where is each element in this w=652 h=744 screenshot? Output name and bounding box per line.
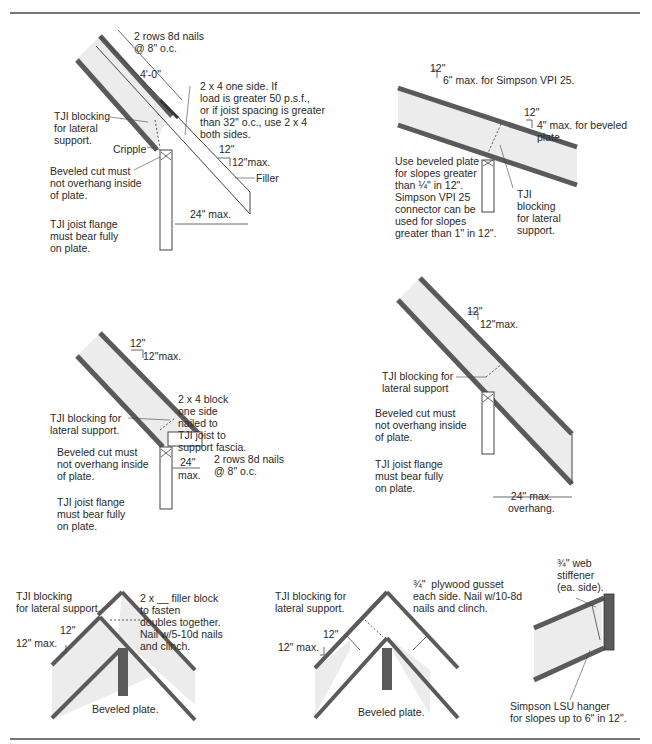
d2-slope2-rise: 4" max. for beveled plate.: [537, 119, 627, 143]
d4-blocking-label: TJI blocking for lateral support: [382, 370, 453, 394]
d3-nails-label: 2 rows 8d nails @ 8" o.c.: [214, 453, 284, 477]
d6-gusset-label: ¾" plywood gusset each side. Nail w/10-8…: [413, 578, 522, 614]
d1-filler-label: Filler: [256, 172, 279, 184]
d4-slope-rise: 12"max.: [480, 318, 518, 330]
d4-slope-run: 12": [467, 305, 482, 317]
d5-slope-run: 12": [60, 624, 75, 636]
d3-slope-rise: 12"max.: [143, 350, 181, 362]
d6-slope-run: 12": [323, 628, 338, 640]
d4-flange-label: TJI joist flange must bear fully on plat…: [375, 458, 443, 494]
d2-blocking-label: TJI blocking for lateral support.: [517, 188, 561, 236]
d2-slope1-rise: 6" max. for Simpson VPI 25.: [443, 74, 575, 86]
d6-slope-rise: 12" max.: [278, 641, 319, 653]
d5-blocking-label: TJI blocking for lateral support.: [16, 590, 101, 614]
d1-nails-label: 2 rows 8d nails @ 8" o.c.: [134, 30, 204, 54]
d1-beveled-label: Beveled cut must not overhang inside of …: [50, 165, 142, 201]
d5-filler-label: 2 x __ filler block to fasten doubles to…: [140, 592, 223, 652]
d1-length-label: 4'-0": [140, 68, 161, 80]
d3-overhang-bot: max.: [178, 469, 201, 481]
d5-slope-rise: 12" max.: [16, 637, 57, 649]
d3-blocking-label: TJI blocking for lateral support.: [50, 412, 121, 436]
d1-slope-run: 12": [219, 143, 234, 155]
d3-beveled-label: Beveled cut must not overhang inside of …: [57, 446, 149, 482]
d6-plate-label: Beveled plate.: [358, 706, 425, 718]
d7-hanger-label: Simpson LSU hanger for slopes up to 6" i…: [510, 700, 627, 724]
d3-overhang-top: 24": [180, 456, 195, 468]
d3-block-label: 2 x 4 block one side nailed to TJI joist…: [178, 393, 246, 453]
d2-slope1-run: 12": [430, 62, 445, 74]
detail-hanger-connection: [534, 594, 614, 700]
d1-overhang-label: 24" max.: [190, 208, 231, 220]
d4-beveled-label: Beveled cut must not overhang inside of …: [375, 407, 467, 443]
d2-slope2-run: 12": [524, 106, 539, 118]
d1-cripple-label: Cripple: [113, 143, 146, 155]
d4-overhang-label: 24" max. overhang.: [508, 490, 555, 514]
d1-2x4-label: 2 x 4 one side. If load is greater 50 p.…: [200, 80, 325, 140]
d1-flange-label: TJI joist flange must bear fully on plat…: [50, 218, 118, 254]
d7-stiffener-label: ¾" web stiffener (ea. side).: [557, 557, 604, 593]
d5-plate-label: Beveled plate.: [92, 703, 159, 715]
d6-blocking-label: TJI blocking for lateral support.: [275, 590, 346, 614]
d1-blocking-label: TJI blocking for lateral support.: [54, 110, 110, 146]
d2-beveled-plate-label: Use beveled plate for slopes greater tha…: [395, 155, 496, 239]
d3-flange-label: TJI joist flange must bear fully on plat…: [57, 496, 125, 532]
d3-slope-run: 12": [130, 337, 145, 349]
d1-slope-rise: 12"max.: [232, 156, 270, 168]
